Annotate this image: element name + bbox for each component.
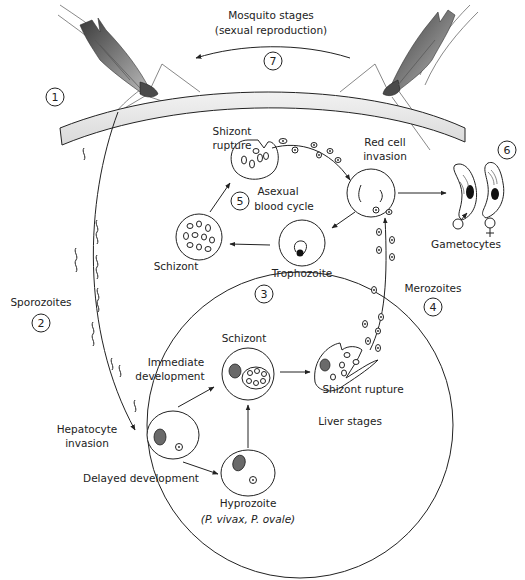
shizont-rupture-top-label-1: Shizont [213,125,252,137]
to-trophozoite-arrow [332,212,355,228]
liver-stages-label: Liver stages [318,415,382,427]
mosquito-right [383,10,455,96]
svg-text:5: 5 [237,195,244,208]
red-cell-invasion-label-2: invasion [363,150,407,162]
malaria-life-cycle-diagram: Mosquito stages (sexual reproduction) 7 … [0,0,525,580]
blood-schizont-cell [176,214,222,260]
mosquito-stages-subtitle: (sexual reproduction) [215,24,327,36]
hyprozoite-label: Hyprozoite [220,497,277,509]
step-7-badge: 7 [264,52,282,70]
liver-schizont-cell [222,348,274,400]
merozoites-label: Merozoites [405,282,462,294]
mosquito-stages-title: Mosquito stages [228,9,314,21]
to-rupture-arrow [210,183,230,212]
delayed-development-label: Delayed development [83,472,199,484]
mosquito-left [80,18,158,97]
immediate-development-label-1: Immediate [148,356,205,368]
immediate-development-arrow [178,387,214,407]
blood-schizont-label: Schizont [154,260,199,272]
step-2-badge: 2 [32,314,50,332]
step-4-badge: 4 [424,298,442,316]
shizont-rupture-top-label-2: rupture [213,139,252,151]
red-blood-cell [347,169,395,217]
female-symbol-icon [485,218,495,237]
svg-text:1: 1 [52,91,59,104]
liver-merozoites [363,229,395,352]
svg-text:2: 2 [38,317,45,330]
infected-hepatocyte [147,411,199,459]
gametocytes-label: Gametocytes [431,238,501,250]
to-blood-schizont-arrow [230,244,270,245]
hepatocyte-invasion-label-1: Hepatocyte [57,423,118,435]
shizont-rupture-liver-label: Shizont rupture [322,383,403,395]
sporozoite-path-arrow [93,112,135,430]
liver-schizont-label: Schizont [222,332,267,344]
step-3-badge: 3 [255,285,273,303]
asexual-cycle-label-1: Asexual [257,185,298,197]
sporozoites-label: Sporozoites [10,296,71,308]
step-5-badge: 5 [231,192,249,210]
svg-text:4: 4 [430,301,437,314]
svg-text:7: 7 [270,55,277,68]
male-gametocyte [454,164,477,220]
hepatocyte-invasion-label-2: invasion [65,437,109,449]
red-cell-invasion-label-1: Red cell [364,136,405,148]
immediate-development-label-2: development [135,370,204,382]
female-gametocyte [483,162,504,218]
trophozoite-cell [279,220,325,266]
free-merozoites [279,139,341,163]
sporozoites-squiggles [75,148,136,412]
svg-text:3: 3 [261,288,268,301]
svg-text:6: 6 [504,144,511,157]
step-1-badge: 1 [46,88,64,106]
hypnozoite-cell [221,450,275,496]
step-6-badge: 6 [498,141,516,159]
trophozoite-label: Trophozoite [271,267,333,279]
species-label: (P. vivax, P. ovale) [201,513,295,525]
asexual-cycle-label-2: blood cycle [254,200,314,212]
